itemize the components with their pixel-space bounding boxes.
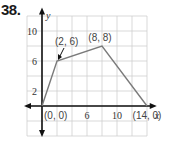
point-label: (2, 6) — [55, 36, 78, 47]
point-label: (8, 8) — [88, 32, 111, 43]
point-label: (0, 0) — [44, 110, 67, 121]
y-tick-label: 6 — [32, 56, 37, 67]
y-axis-up-arrow-icon — [39, 8, 45, 15]
y-tick-label: 10 — [27, 26, 37, 37]
chart-area: yx2610610(0, 0)(2, 6)(8, 8)(14, 0) — [0, 0, 180, 146]
x-axis-right-arrow-icon — [150, 103, 157, 109]
y-axis-label: y — [45, 10, 51, 21]
x-tick-label: 6 — [85, 110, 90, 121]
point-label: (14, 0) — [133, 110, 162, 121]
x-tick-label: 10 — [112, 110, 122, 121]
labels: yx2610610(0, 0)(2, 6)(8, 8)(14, 0) — [27, 10, 161, 121]
x-axis-left-arrow-icon — [24, 103, 31, 109]
y-tick-label: 2 — [32, 86, 37, 97]
